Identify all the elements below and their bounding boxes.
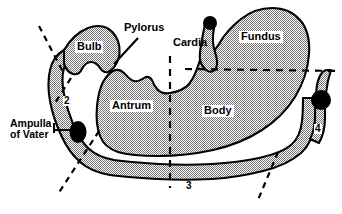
anatomy-illustration	[0, 0, 342, 214]
segment-number-4: 4	[314, 124, 322, 134]
segment-number-3: 3	[185, 181, 193, 191]
anatomy-diagram: Pylorus Cardia Fundus Bulb Antrum Body A…	[0, 0, 342, 214]
label-ampulla-line2: of Vater	[10, 129, 49, 140]
ligament-of-treitz-marker	[311, 90, 331, 110]
label-body: Body	[202, 105, 234, 117]
label-antrum: Antrum	[110, 100, 153, 112]
esophagus-top-marker	[203, 16, 217, 30]
segment-number-2: 2	[63, 96, 71, 106]
label-fundus: Fundus	[239, 31, 283, 43]
label-cardia: Cardia	[173, 37, 207, 49]
label-pylorus: Pylorus	[124, 22, 164, 34]
label-bulb: Bulb	[75, 41, 103, 53]
ampulla-of-vater-marker	[70, 121, 87, 143]
